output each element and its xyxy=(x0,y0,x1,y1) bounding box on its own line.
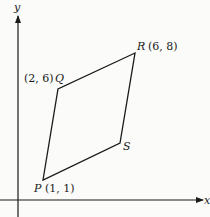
svg-text:S: S xyxy=(123,140,131,153)
coordinate-diagram: x y (2, 6) Q R (6, 8) S P (1, 1) xyxy=(0,0,210,217)
svg-text:(1, 1): (1, 1) xyxy=(45,182,75,195)
y-axis-label: y xyxy=(13,1,21,14)
label-p: P (1, 1) xyxy=(33,182,75,195)
label-r: R (6, 8) xyxy=(136,40,178,53)
svg-text:R: R xyxy=(136,40,145,53)
x-axis-label: x xyxy=(204,194,210,207)
label-q: (2, 6) Q xyxy=(24,72,64,85)
label-s: S xyxy=(123,140,131,153)
svg-text:Q: Q xyxy=(55,72,64,85)
svg-text:(6, 8): (6, 8) xyxy=(148,40,178,53)
svg-text:P: P xyxy=(33,182,42,195)
svg-text:(2, 6): (2, 6) xyxy=(24,72,54,85)
